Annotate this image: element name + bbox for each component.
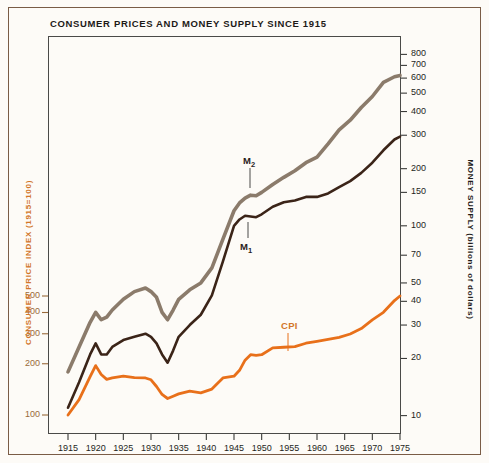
plot-area-frame xyxy=(48,36,401,434)
right-axis-tick-800: 800 xyxy=(411,48,426,58)
right-axis-tick-700: 700 xyxy=(411,59,426,69)
left-axis-title: CONSUMER PRICE INDEX (1915=100) xyxy=(24,173,33,353)
right-axis-tick-200: 200 xyxy=(411,163,426,173)
right-axis-tick-50: 50 xyxy=(411,277,421,287)
series-label-m1-text: M xyxy=(240,241,248,252)
chart-page: CONSUMER PRICES AND MONEY SUPPLY SINCE 1… xyxy=(0,0,489,463)
right-axis-tick-70: 70 xyxy=(411,249,421,259)
left-axis-tick-100: 100 xyxy=(8,409,40,419)
right-axis-tick-150: 150 xyxy=(411,186,426,196)
right-axis-title: MONEY SUPPLY (billions of dollars) xyxy=(466,145,475,335)
series-label-m2-text: M xyxy=(243,155,251,166)
right-axis-tick-600: 600 xyxy=(411,72,426,82)
right-axis-tick-20: 20 xyxy=(411,352,421,362)
chart-title: CONSUMER PRICES AND MONEY SUPPLY SINCE 1… xyxy=(50,18,327,29)
series-label-m1-subscript: 1 xyxy=(248,246,252,255)
right-axis-tick-10: 10 xyxy=(411,410,421,420)
right-axis-tick-100: 100 xyxy=(411,220,426,230)
left-axis-tick-200: 200 xyxy=(8,358,40,368)
right-axis-tick-400: 400 xyxy=(411,106,426,116)
right-axis-tick-500: 500 xyxy=(411,87,426,97)
right-axis-tick-30: 30 xyxy=(411,319,421,329)
series-label-cpi: CPI xyxy=(281,320,298,331)
series-label-m1: M1 xyxy=(240,241,252,255)
series-label-m2-subscript: 2 xyxy=(251,160,255,169)
series-label-m2: M2 xyxy=(243,155,255,169)
x-axis-tick-1975: 1975 xyxy=(382,443,418,453)
right-axis-tick-40: 40 xyxy=(411,295,421,305)
right-axis-tick-300: 300 xyxy=(411,129,426,139)
